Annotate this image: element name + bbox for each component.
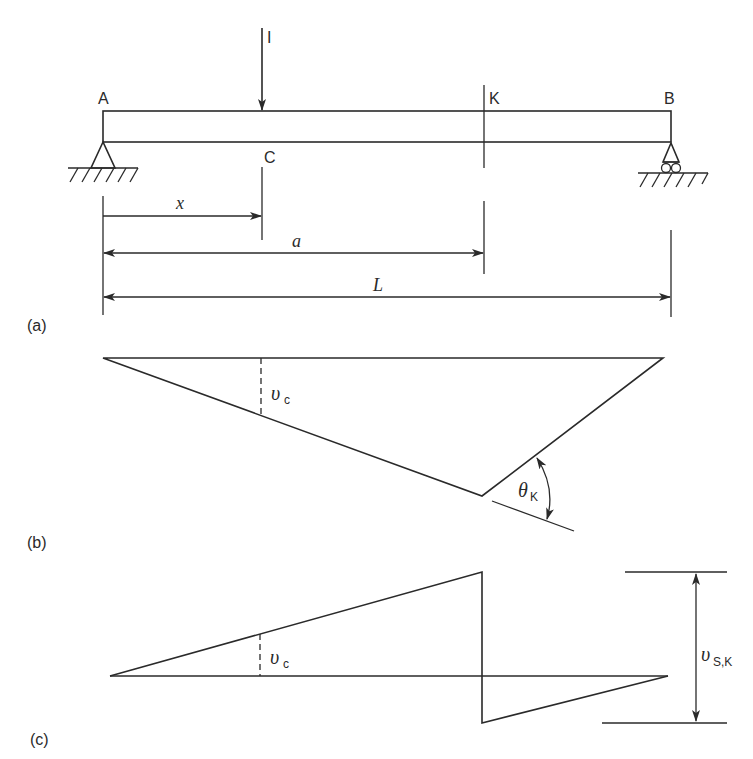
dimension-x-label: x: [175, 193, 184, 213]
panel-label-c: (c): [30, 731, 49, 748]
panel-a-beam: I A K B C: [27, 28, 708, 334]
panel-label-a: (a): [27, 317, 47, 334]
panel-label-b: (b): [27, 534, 47, 551]
shear-ordinate-c-sub: c: [283, 657, 289, 671]
moment-influence-shape: [103, 358, 663, 496]
point-label-a: A: [98, 90, 109, 107]
angle-arc: [537, 458, 550, 519]
pin-support-icon: [68, 142, 138, 182]
dimension-l-label: L: [372, 275, 383, 295]
point-label-c: C: [264, 149, 276, 166]
angle-theta-label: θ: [518, 479, 528, 501]
angle-reference-line: [492, 501, 574, 531]
roller-support-icon: [638, 143, 708, 187]
shear-positive-branch: [110, 572, 668, 723]
beam: [103, 111, 671, 142]
panel-c-shear-influence-line: υ c υ S,K (c): [30, 572, 732, 748]
ordinate-c-sub: c: [284, 393, 290, 407]
panel-b-moment-influence-line: υ c θ K (b): [27, 358, 663, 551]
shear-ordinate-c-label: υ: [270, 646, 279, 668]
angle-theta-sub: K: [530, 490, 538, 504]
load-label: I: [267, 29, 271, 46]
jump-label: υ: [701, 643, 710, 665]
influence-line-diagram: I A K B C: [0, 0, 753, 759]
jump-sub: S,K: [713, 655, 732, 669]
dimension-a-label: a: [292, 231, 301, 251]
ordinate-c-label: υ: [271, 382, 280, 404]
point-label-b: B: [664, 90, 675, 107]
point-label-k: K: [489, 90, 500, 107]
